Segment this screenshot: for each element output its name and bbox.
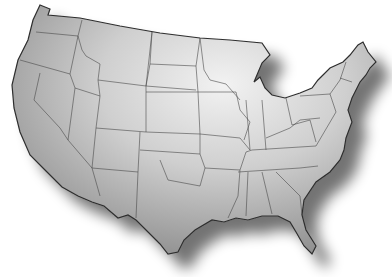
country-outline [12,5,376,254]
us-map-graphic [0,0,392,277]
us-map: United States map [0,0,392,277]
